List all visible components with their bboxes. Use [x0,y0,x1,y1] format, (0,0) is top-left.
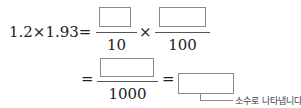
expression-lhs: 1.2×1.93= [9,25,91,40]
fraction2-numerator-input[interactable] [159,7,206,27]
note-pointer-line [200,94,233,101]
fraction3-bar [97,81,158,82]
equals-sign-3: = [162,72,175,87]
fraction2-denominator: 100 [155,38,210,53]
fraction2-bar [155,32,210,33]
fraction1-denominator: 10 [96,38,137,53]
answer-input[interactable] [178,73,234,94]
fraction3-numerator-input[interactable] [100,58,154,77]
fraction1-bar [96,32,137,33]
instruction-note: 소수로 나타냅니다. [235,96,301,106]
equals-sign-2: = [81,72,94,87]
fraction3-denominator: 1000 [97,87,158,102]
times-sign: × [139,25,152,40]
fraction1-numerator-input[interactable] [99,7,131,27]
